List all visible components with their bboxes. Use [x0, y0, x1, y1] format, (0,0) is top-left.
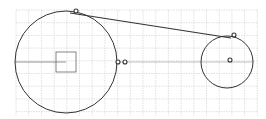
tangent-point-small-point	[232, 33, 236, 37]
geometry-diagram	[0, 0, 266, 119]
small-circle-center-point	[228, 58, 232, 62]
marker-a-point	[116, 60, 120, 64]
tangent-point-large-point	[74, 9, 78, 13]
marker-b-point	[123, 60, 127, 64]
grid	[16, 10, 257, 116]
diagram-canvas	[0, 0, 266, 119]
tangent-line	[70, 13, 231, 38]
